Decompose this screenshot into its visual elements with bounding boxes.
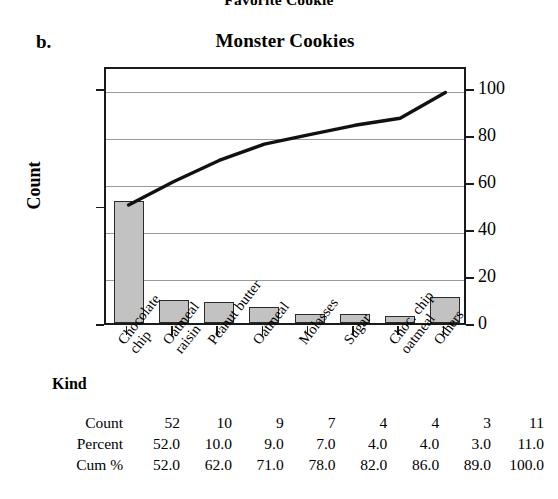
y-tickmark-right	[466, 136, 474, 138]
table-cell: 62.0	[180, 456, 232, 477]
table-cell: 7.0	[284, 435, 336, 456]
table-cell: 52.0	[123, 435, 180, 456]
y-tickmark-left	[96, 89, 104, 91]
table-cell: 9	[232, 414, 284, 435]
x-axis-title-kind: Kind	[52, 375, 87, 393]
clipped-header-region: Favorite Cookie	[0, 0, 558, 14]
y-tickmark-right	[466, 277, 474, 279]
y-tickmark-right	[466, 89, 474, 91]
table-cell: 52	[123, 414, 180, 435]
y-tickmark-left	[96, 207, 104, 209]
table-cell: 11	[491, 414, 544, 435]
table-row: Count52109744311	[24, 414, 544, 435]
table-cell: 52.0	[123, 456, 180, 477]
y-tick-right-40: 40	[478, 219, 534, 240]
clipped-header-title: Favorite Cookie	[0, 0, 558, 9]
y-axis-title-count: Count	[24, 146, 45, 226]
table-cell: 4	[336, 414, 388, 435]
table-cell: 89.0	[439, 456, 491, 477]
table-cell: 4.0	[387, 435, 439, 456]
table-cell: 100.0	[491, 456, 544, 477]
table-cell: 71.0	[232, 456, 284, 477]
y-tickmark-left	[96, 324, 104, 326]
table-cell: 10.0	[180, 435, 232, 456]
table-cell: 11.0	[491, 435, 544, 456]
table-cell: 4	[387, 414, 439, 435]
table-row-label: Percent	[24, 435, 123, 456]
table-cell: 86.0	[387, 456, 439, 477]
y-tick-right-0: 0	[478, 313, 534, 334]
y-tickmark-right	[466, 183, 474, 185]
plot-area	[106, 69, 464, 323]
table-cell: 4.0	[336, 435, 388, 456]
table-row-label: Count	[24, 414, 123, 435]
y-tick-right-20: 20	[478, 266, 534, 287]
table-row: Percent52.010.09.07.04.04.03.011.0	[24, 435, 544, 456]
table-cell: 9.0	[232, 435, 284, 456]
table-cell: 3.0	[439, 435, 491, 456]
y-tickmark-right	[466, 324, 474, 326]
table-cell: 7	[284, 414, 336, 435]
chart-title: Monster Cookies	[104, 30, 466, 52]
table-cell: 78.0	[284, 456, 336, 477]
plot-frame	[104, 67, 466, 325]
table-cell: 3	[439, 414, 491, 435]
pareto-data-table: Count52109744311Percent52.010.09.07.04.0…	[24, 414, 544, 477]
y-tick-right-80: 80	[478, 125, 534, 146]
table-row-label: Cum %	[24, 456, 123, 477]
y-tick-right-100: 100	[478, 78, 534, 99]
table-cell: 10	[180, 414, 232, 435]
table-cell: 82.0	[336, 456, 388, 477]
cumulative-line-path	[129, 92, 446, 205]
panel-label: b.	[36, 31, 51, 53]
y-tick-right-60: 60	[478, 172, 534, 193]
y-tickmark-right	[466, 230, 474, 232]
table-row: Cum %52.062.071.078.082.086.089.0100.0	[24, 456, 544, 477]
cumulative-percent-line	[106, 69, 468, 327]
